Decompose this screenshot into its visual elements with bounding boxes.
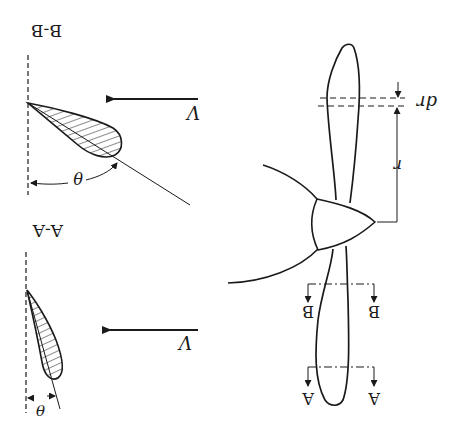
upper-blade [327,44,359,203]
dr-label: dr [415,92,437,113]
propeller-diagram: B-B θ V A-A θ V dr [0,0,459,441]
r-label: r [393,156,402,176]
velocity-label-bb: V [185,102,200,123]
propeller-hub [312,199,375,250]
section-aa: A-A θ V [26,221,198,419]
section-aa-theta-label: θ [36,401,45,419]
section-aa-title: A-A [32,221,64,241]
cut-a-right-label: A [368,389,381,408]
propeller: dr r B B A A [228,44,437,408]
spinner-arc-upper [263,165,317,199]
velocity-label-aa: V [177,332,192,353]
cut-b-left-label: B [302,302,314,321]
spinner-arc-lower [228,249,318,283]
cut-b-right-label: B [368,302,380,321]
section-bb-theta-label: θ [73,168,83,187]
lower-blade [316,246,349,405]
section-bb-airfoil [28,103,122,157]
section-bb-title: B-B [31,21,62,41]
section-cut-bb: B B [302,284,380,321]
section-aa-airfoil [27,290,62,379]
section-bb: B-B θ V [28,21,200,205]
cut-a-left-label: A [302,389,315,408]
section-bb-chord-line [28,103,190,205]
